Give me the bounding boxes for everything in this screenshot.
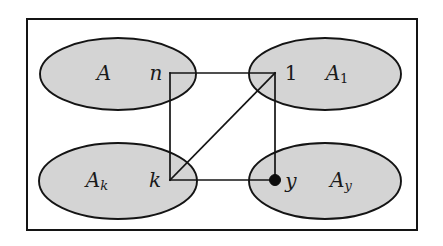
set-label-A: A (95, 61, 111, 85)
set-label-Ay-subscript: y (344, 178, 353, 193)
set-label-Ay-base: A (328, 168, 344, 192)
set-label-A1-subscript: 1 (340, 71, 348, 86)
vertex-label-k: k (149, 168, 161, 192)
vertex-label-y: y (284, 169, 297, 193)
set-label-Ak-base: A (84, 168, 100, 192)
vertex-label-n: n (150, 61, 163, 85)
set-graph-diagram: A A1 Ak Ay n 1 k y (0, 0, 443, 246)
set-label-A1-base: A (324, 61, 340, 85)
figure-container: A A1 Ak Ay n 1 k y (0, 0, 443, 246)
vertex-dot-y (270, 175, 281, 186)
set-label-A-base: A (95, 61, 111, 85)
ellipse-set-A (40, 38, 196, 110)
set-label-Ak-subscript: k (100, 178, 108, 193)
ellipse-set-Ak (39, 143, 197, 219)
vertex-label-1: 1 (285, 61, 298, 85)
